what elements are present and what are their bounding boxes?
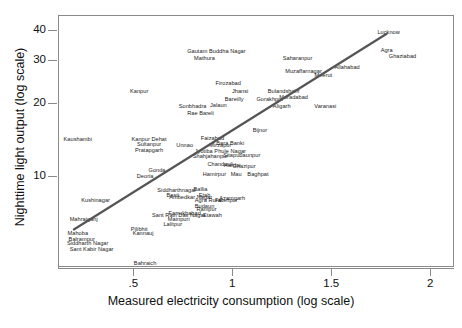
- x-tick-label: 1: [229, 277, 235, 289]
- y-tick-mark: [48, 176, 57, 177]
- x-axis-title: Measured electricity consumption (log sc…: [0, 294, 462, 308]
- x-tick-label: 1.5: [323, 277, 339, 289]
- x-tick-mark: [331, 268, 332, 276]
- x-tick-mark: [430, 268, 431, 276]
- x-axis-line: [58, 268, 454, 269]
- regression-fit-line: [58, 15, 454, 267]
- x-tick-label: 2: [427, 277, 433, 289]
- y-axis-line: [58, 15, 59, 268]
- y-tick-mark: [48, 103, 57, 104]
- y-tick-mark: [48, 30, 57, 31]
- x-tick-label: .5: [128, 277, 138, 289]
- x-tick-mark: [133, 268, 134, 276]
- y-axis-title: Nighttime light output (log scale): [13, 11, 27, 263]
- chart-figure: LucknowAgraGhaziabadGautam Buddha NagarM…: [0, 0, 462, 328]
- y-tick-mark: [48, 60, 57, 61]
- x-tick-mark: [232, 268, 233, 276]
